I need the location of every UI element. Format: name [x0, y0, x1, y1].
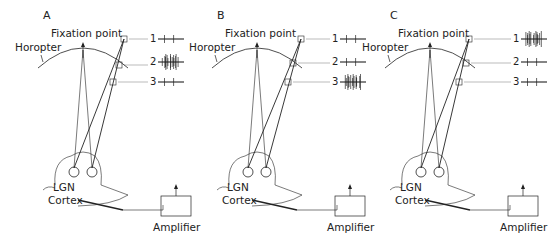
- fixation-point-label: Fixation point: [225, 28, 296, 39]
- panel-c: CFixation pointHoropterLGNCortexAmplifie…: [363, 0, 553, 244]
- trace-number: 1: [332, 34, 338, 44]
- panel-label: A: [43, 10, 51, 21]
- lgn-label: LGN: [227, 182, 249, 193]
- trace-number: 2: [332, 57, 338, 67]
- trace-number: 3: [513, 77, 519, 87]
- panel-label: C: [390, 10, 398, 21]
- horopter-label: Horopter: [189, 42, 235, 53]
- panel-b: BFixation pointHoropterLGNCortexAmplifie…: [182, 0, 367, 244]
- trace-number: 1: [150, 34, 156, 44]
- cortex-label: Cortex: [222, 195, 257, 206]
- amplifier-label: Amplifier: [500, 222, 547, 233]
- fixation-point-label: Fixation point: [51, 28, 122, 39]
- horopter-label: Horopter: [15, 42, 61, 53]
- lgn-label: LGN: [53, 182, 75, 193]
- cortex-label: Cortex: [395, 195, 430, 206]
- horopter-label: Horopter: [362, 42, 408, 53]
- trace-number: 3: [332, 77, 338, 87]
- panel-a: AFixation pointHoropterLGNCortexAmplifie…: [0, 0, 185, 244]
- lgn-label: LGN: [400, 182, 422, 193]
- trace-number: 1: [513, 34, 519, 44]
- trace-number: 2: [513, 57, 519, 67]
- cortex-label: Cortex: [48, 195, 83, 206]
- trace-number: 3: [150, 77, 156, 87]
- fixation-point-label: Fixation point: [398, 28, 469, 39]
- trace-number: 2: [150, 57, 156, 67]
- panel-label: B: [217, 10, 225, 21]
